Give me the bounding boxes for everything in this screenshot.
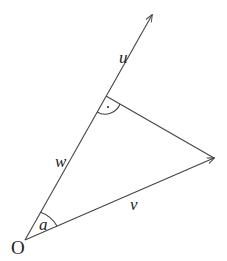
right-angle-dot [107, 106, 109, 108]
perpendicular-line [106, 96, 214, 158]
label-u: u [119, 48, 128, 67]
projection-diagram: u w v a O [0, 0, 227, 261]
label-w: w [55, 152, 67, 171]
label-origin: O [11, 237, 25, 258]
vector-v-line [25, 158, 214, 240]
label-angle-a: a [39, 215, 48, 234]
label-v: v [130, 195, 138, 214]
